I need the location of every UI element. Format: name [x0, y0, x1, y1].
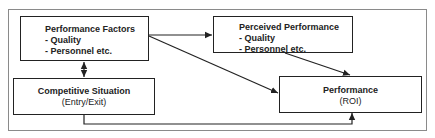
- node-title: Performance: [280, 85, 421, 96]
- node-perceived-performance: Perceived Performance - Quality - Person…: [213, 16, 353, 53]
- node-item: - Quality: [239, 33, 339, 44]
- arrow-perceived-to-roi: [285, 53, 350, 75]
- node-subtitle: (ROI): [280, 96, 421, 107]
- node-performance-roi: Performance (ROI): [279, 76, 422, 113]
- node-performance-factors: Performance Factors - Quality - Personne…: [20, 16, 149, 61]
- node-competitive-situation: Competitive Situation (Entry/Exit): [13, 78, 155, 115]
- node-title: Perceived Performance: [239, 22, 339, 33]
- node-title: Performance Factors: [45, 24, 135, 35]
- node-subtitle: (Entry/Exit): [14, 97, 154, 108]
- node-item: - Quality: [45, 35, 135, 46]
- node-item: - Personnel etc.: [239, 44, 339, 55]
- node-title: Competitive Situation: [14, 86, 154, 97]
- node-item: - Personnel etc.: [45, 46, 135, 57]
